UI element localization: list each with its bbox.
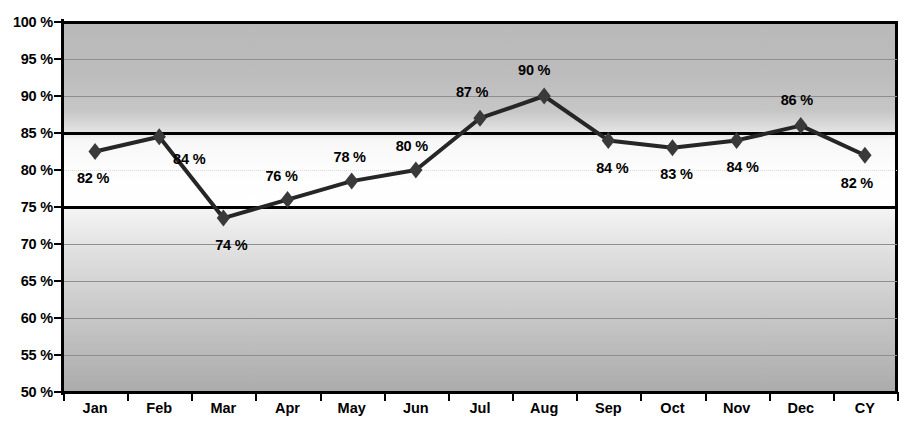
y-axis-label: 50 % [0,384,53,400]
x-axis-label-oct: Oct [660,400,684,416]
x-axis-label-dec: Dec [787,400,814,416]
x-tick [255,392,257,401]
data-label-may: 78 % [334,149,366,165]
gridline-75 [63,206,897,209]
x-axis-label-jan: Jan [83,400,108,416]
x-tick [191,392,193,401]
y-axis-line [61,19,64,395]
x-axis-label-jul: Jul [470,400,491,416]
x-tick [448,392,450,401]
y-axis-label: 60 % [0,310,53,326]
x-tick [769,392,771,401]
gridline-60 [63,318,897,319]
x-tick [63,392,65,401]
x-tick [833,392,835,401]
data-label-feb: 84 % [173,151,205,167]
data-label-cy: 82 % [841,175,873,191]
x-tick [705,392,707,401]
line-chart: 100 %95 %90 %85 %80 %75 %70 %65 %60 %55 … [0,0,915,438]
x-tick [127,392,129,401]
plot-frame-top [63,21,898,24]
gridline-80 [63,170,897,171]
data-label-apr: 76 % [265,168,297,184]
y-axis-label: 85 % [0,125,53,141]
y-axis-label: 75 % [0,199,53,215]
data-label-aug: 90 % [518,62,550,78]
data-label-jul: 87 % [456,84,488,100]
data-label-mar: 74 % [215,237,247,253]
x-tick [512,392,514,401]
x-axis-label-jun: Jun [403,400,429,416]
data-label-sep: 84 % [596,160,628,176]
x-tick [320,392,322,401]
gridline-95 [63,59,897,60]
data-label-oct: 83 % [660,166,692,182]
x-tick [897,392,899,401]
data-label-jun: 80 % [396,138,428,154]
x-axis-label-sep: Sep [595,400,622,416]
y-axis-label: 70 % [0,236,53,252]
data-label-jan: 82 % [77,170,109,186]
x-axis-label-mar: Mar [210,400,236,416]
x-axis-label-apr: Apr [275,400,300,416]
gridline-70 [63,244,897,245]
x-tick [576,392,578,401]
y-axis-label: 65 % [0,273,53,289]
x-tick [384,392,386,401]
x-axis-label-aug: Aug [530,400,558,416]
y-axis-label: 80 % [0,162,53,178]
y-axis-label: 95 % [0,51,53,67]
x-axis-label-feb: Feb [146,400,172,416]
y-axis-label: 90 % [0,88,53,104]
x-axis-label-nov: Nov [723,400,750,416]
y-axis-label: 100 % [0,14,53,30]
y-axis-label: 55 % [0,347,53,363]
gridline-55 [63,355,897,356]
gridline-65 [63,281,897,282]
x-axis-line [61,391,898,394]
gridline-85 [63,132,897,135]
x-axis-label-may: May [338,400,366,416]
data-label-dec: 86 % [781,92,813,108]
x-axis-label-cy: CY [855,400,875,416]
x-tick [640,392,642,401]
data-label-nov: 84 % [726,159,758,175]
